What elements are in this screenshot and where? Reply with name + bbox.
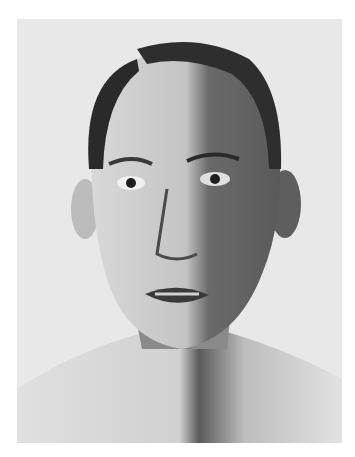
right-pupil — [210, 174, 220, 184]
portrait-photo — [17, 19, 342, 443]
left-pupil — [126, 178, 136, 188]
portrait-illustration — [17, 19, 342, 443]
